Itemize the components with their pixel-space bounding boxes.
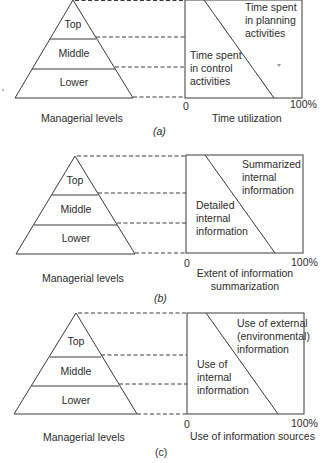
level-lower-c: Lower (54, 394, 98, 407)
level-top-b: Top (60, 174, 90, 187)
level-middle-a: Middle (52, 47, 96, 60)
stray-dot-icon (2, 89, 4, 91)
level-top-c: Top (61, 335, 91, 348)
xlabel-a: Time utilization (212, 112, 282, 125)
pyramid-title-c: Managerial levels (43, 431, 125, 444)
pyramid-title-b: Managerial levels (42, 272, 124, 285)
axis-max-c: 100% (291, 417, 318, 430)
level-lower-b: Lower (54, 232, 98, 245)
xlabel-c: Use of information sources (190, 430, 315, 443)
diagram-line-art (0, 0, 335, 463)
right-region-label-b: Summarized internal information (242, 158, 301, 197)
level-lower-a: Lower (52, 76, 96, 89)
left-region-label-c: Use of internal information (197, 358, 249, 397)
axis-max-b: 100% (291, 256, 318, 269)
axis-min-c: 0 (184, 418, 190, 431)
axis-max-a: 100% (290, 98, 317, 111)
caption-c: (c) (155, 446, 167, 459)
pyramid-title-a: Managerial levels (41, 112, 123, 125)
axis-min-a: 0 (183, 100, 189, 113)
caption-b: (b) (154, 292, 167, 305)
caption-a: (a) (153, 125, 166, 138)
level-middle-b: Middle (54, 203, 98, 216)
level-top-a: Top (58, 18, 88, 31)
stray-mark-icon (277, 64, 281, 67)
left-region-label-b: Detailed internal information (196, 199, 248, 238)
left-region-label-a: Time spent in control activities (190, 49, 242, 88)
right-region-label-c: Use of external (environmental) informat… (237, 317, 310, 356)
xlabel-b: Extent of information summarization (195, 267, 295, 293)
right-region-label-a: Time spent in planning activities (245, 1, 297, 40)
level-middle-c: Middle (54, 365, 98, 378)
axis-min-b: 0 (184, 257, 190, 270)
